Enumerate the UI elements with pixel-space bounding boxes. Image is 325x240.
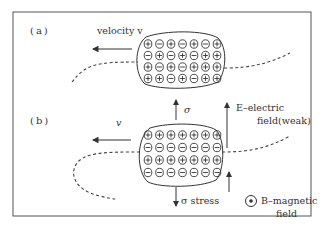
velocity-label-a: velocity v [97,26,143,36]
sigma-label: σ [184,105,191,115]
dashed-wake-a-right [224,53,290,68]
panel-label-a: (a) [30,26,50,36]
dashed-wake-b-left [74,152,140,199]
b-field-dot [249,199,253,203]
charge-grid-a [144,40,221,83]
b-field-label-2: field [276,209,297,219]
charge-grid-b [144,131,221,177]
e-field-label-1: E–electric [236,103,284,113]
velocity-label-b: v [116,118,121,128]
dashed-wake-b-right [222,136,290,152]
dashed-wake-a-left [72,62,138,82]
e-field-label-2: field(weak) [257,116,311,126]
b-field-label-1: B–magnetic [261,196,317,206]
panel-label-b: (b) [30,116,50,126]
sigma-stress-label: σ stress [181,196,219,206]
